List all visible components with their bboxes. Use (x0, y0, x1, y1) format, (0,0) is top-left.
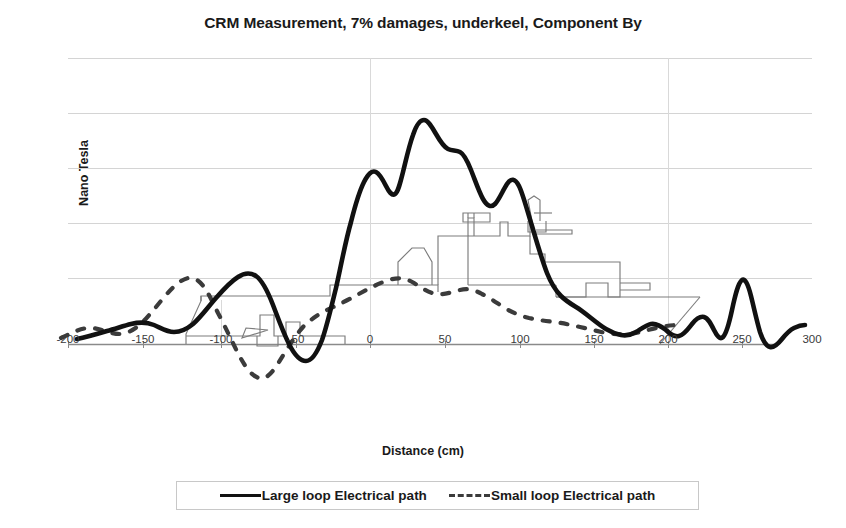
chart-container: CRM Measurement, 7% damages, underkeel, … (0, 0, 846, 528)
x-tick-label: 300 (782, 333, 842, 345)
x-tick-label: 200 (638, 333, 698, 345)
x-tick-label: 250 (712, 333, 772, 345)
x-tick-label: 150 (564, 333, 624, 345)
gridlines (68, 59, 812, 279)
x-tick-label: 50 (415, 333, 475, 345)
x-tick-label: -50 (266, 333, 326, 345)
ship-silhouette-overlay (186, 196, 700, 346)
x-tick-label: -200 (38, 333, 98, 345)
x-tick-label: -150 (113, 333, 173, 345)
chart-legend: Large loop Electrical path Small loop El… (176, 481, 699, 510)
legend-swatch-dashed-icon (449, 494, 490, 497)
legend-label-large-loop: Large loop Electrical path (262, 488, 427, 503)
legend-label-small-loop: Small loop Electrical path (491, 488, 655, 503)
series-large-loop-electrical-path (77, 120, 805, 361)
vertical-gridlines (222, 58, 669, 345)
x-axis-title: Distance (cm) (0, 444, 846, 458)
legend-item-small-loop: Small loop Electrical path (439, 488, 655, 503)
x-tick-label: -100 (191, 333, 251, 345)
legend-swatch-solid-icon (220, 494, 261, 497)
x-tick-label: 100 (490, 333, 550, 345)
x-tick-label: 0 (340, 333, 400, 345)
legend-item-large-loop: Large loop Electrical path (220, 488, 427, 503)
